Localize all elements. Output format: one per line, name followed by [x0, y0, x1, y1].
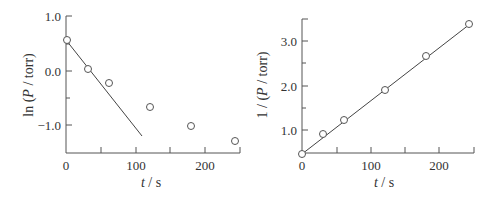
chart1-xtick-0: 0 — [63, 158, 70, 173]
chart1-data-points — [64, 37, 239, 145]
chart2-axes — [302, 19, 474, 153]
chart1-point — [188, 123, 195, 130]
chart-ln-pressure: 1.0 0.0 −1.0 0 100 200 t / s ln (P / tor… — [21, 9, 240, 190]
chart1-ylabel: ln (P / torr) — [21, 53, 37, 117]
chart2-ylabel: 1 / (P / torr) — [255, 51, 271, 118]
chart1-axes — [66, 16, 240, 153]
chart2-xlabel: t / s — [374, 175, 394, 190]
chart1-point — [232, 138, 239, 145]
chart1-xtick-200: 200 — [195, 158, 215, 173]
chart2-data-points — [299, 21, 473, 158]
chart1-xlabel: t / s — [141, 175, 161, 190]
chart1-point — [106, 80, 113, 87]
chart1-ytick-1: 1.0 — [45, 9, 61, 24]
chart1-point — [147, 104, 154, 111]
chart2-ytick-3: 3.0 — [281, 34, 297, 49]
chart1-xtick-100: 100 — [126, 158, 146, 173]
chart1-ytick-neg1: −1.0 — [37, 118, 61, 133]
chart2-xtick-0: 0 — [299, 158, 306, 173]
chart2-xtick-200: 200 — [429, 158, 449, 173]
chart1-ytick-0: 0.0 — [45, 64, 61, 79]
chart2-point — [341, 117, 348, 124]
chart2-point — [320, 131, 327, 138]
chart2-point — [466, 21, 473, 28]
chart2-ytick-1: 1.0 — [281, 123, 297, 138]
chart2-xtick-100: 100 — [361, 158, 381, 173]
chart2-point — [382, 87, 389, 94]
chart-inverse-pressure: 1.0 2.0 3.0 0 100 200 t / s 1 / (P / tor… — [255, 19, 474, 190]
chart2-point — [299, 151, 306, 158]
chart2-ytick-2: 2.0 — [281, 79, 297, 94]
chart1-point — [64, 37, 71, 44]
chart2-point — [423, 53, 430, 60]
chart1-initial-slope-line — [66, 40, 142, 136]
chart1-point — [85, 66, 92, 73]
